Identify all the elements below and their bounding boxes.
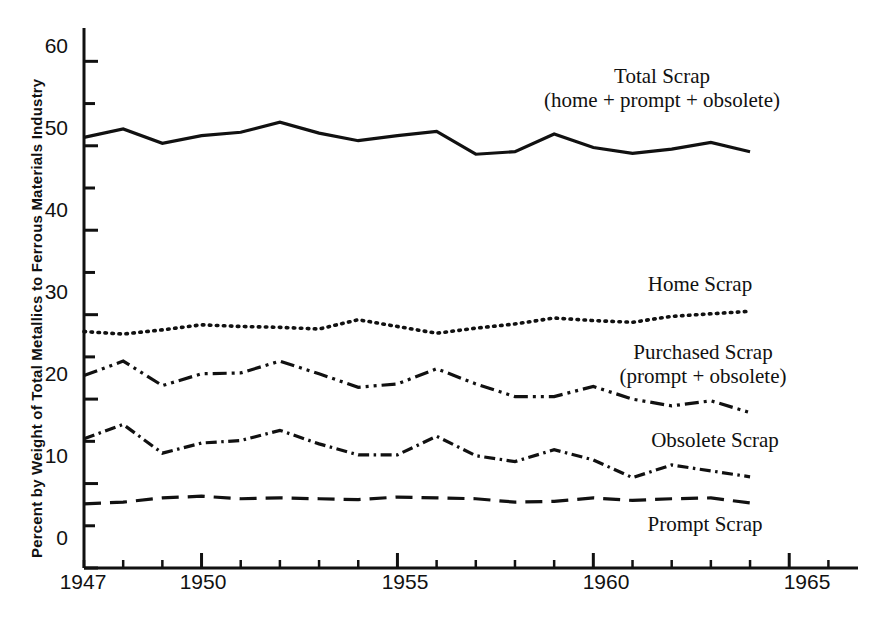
series-line-home-scrap <box>84 311 750 334</box>
series-line-purchased-scrap <box>84 361 750 413</box>
series-line-total-scrap <box>84 122 750 154</box>
chart-plot-area <box>0 0 871 617</box>
data-series <box>84 122 750 504</box>
chart-page: Percent by Weight of Total Metallics to … <box>0 0 871 617</box>
axes-lines <box>84 28 858 568</box>
series-line-prompt-scrap <box>84 496 750 504</box>
series-line-obsolete-scrap <box>84 424 750 477</box>
